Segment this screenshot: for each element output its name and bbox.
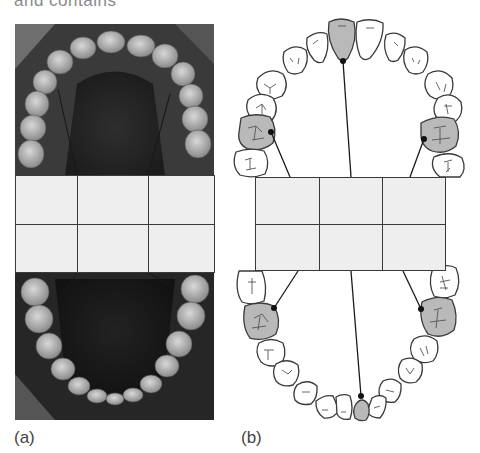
pointer-dot	[268, 129, 274, 135]
grid-cell	[16, 224, 78, 273]
pointer-line	[271, 132, 290, 177]
pointer-line	[274, 271, 298, 308]
grid-cell	[256, 178, 320, 225]
tooth-upper-central-incisor-shaded	[328, 19, 355, 61]
panel-label-a: (a)	[14, 428, 35, 448]
pointer-dot	[271, 305, 277, 311]
tooth-lower-second-molar	[237, 271, 266, 304]
grid-cell	[78, 176, 149, 225]
grid-cell	[78, 224, 149, 273]
grid-cell	[320, 224, 383, 271]
pointer-dot	[340, 58, 346, 64]
caption-partial-text: and contains	[14, 0, 116, 11]
tooth-lower-central-incisor-shaded	[354, 400, 369, 421]
tooth-upper-second-molar	[234, 149, 268, 177]
tooth-upper-lateral-incisor	[307, 33, 328, 63]
grid-row	[16, 224, 215, 273]
pointer-line	[403, 271, 421, 309]
grid-cell	[383, 224, 446, 271]
grid-cell	[256, 224, 320, 271]
grid-cell	[320, 178, 383, 225]
tooth-upper-canine	[283, 47, 307, 74]
tooth-lower-first-molar-shaded	[421, 297, 456, 336]
tooth-lower-first-premolar	[274, 361, 299, 386]
tooth-upper-central-incisor	[356, 20, 383, 60]
pointer-line	[351, 271, 361, 396]
pointer-dot	[358, 393, 364, 399]
grid-cell	[149, 176, 215, 225]
tooth-upper-lateral-incisor	[385, 33, 406, 61]
grid-cell	[149, 224, 215, 273]
diagram-grid-table	[255, 177, 446, 271]
tooth-upper-canine	[404, 47, 428, 74]
grid-row	[256, 224, 446, 271]
panel-label-b: (b)	[241, 428, 262, 448]
grid-cell	[383, 178, 446, 225]
tooth-lower-first-premolar	[398, 358, 422, 383]
grid-row	[16, 176, 215, 225]
pointer-line	[410, 139, 424, 177]
grid-row	[256, 178, 446, 225]
tooth-lower-canine	[294, 382, 317, 405]
pointer-dot	[418, 306, 424, 312]
grid-cell	[16, 176, 78, 225]
photo-grid-table	[15, 175, 215, 273]
pointer-dot	[421, 136, 427, 142]
tooth-lower-lateral-incisor	[336, 395, 352, 420]
pointer-line	[343, 61, 351, 177]
